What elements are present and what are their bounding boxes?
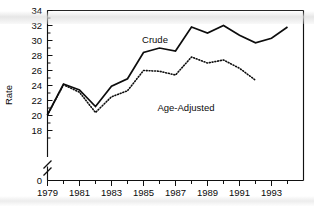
series-line-age-adjusted bbox=[48, 57, 256, 115]
x-ticks bbox=[48, 181, 288, 187]
y-axis-title: Rate bbox=[3, 85, 14, 105]
x-tick-label-1989: 1989 bbox=[197, 187, 218, 198]
y-ticks bbox=[48, 11, 53, 181]
series-label-crude: Crude bbox=[142, 34, 168, 45]
y-tick-label-26: 26 bbox=[31, 65, 42, 76]
x-tick-label-1979: 1979 bbox=[37, 187, 58, 198]
x-tick-labels: 1979 1981 1983 1985 1987 1989 1991 1993 bbox=[37, 187, 282, 198]
x-tick-label-1991: 1991 bbox=[229, 187, 250, 198]
x-tick-label-1987: 1987 bbox=[165, 187, 186, 198]
y-tick-label-34: 34 bbox=[31, 5, 42, 16]
line-chart: 34 32 30 28 26 24 22 20 18 0 Rate bbox=[0, 0, 314, 209]
y-tick-labels: 34 32 30 28 26 24 22 20 18 0 bbox=[31, 5, 42, 186]
y-tick-label-32: 32 bbox=[31, 20, 42, 31]
y-tick-label-28: 28 bbox=[31, 50, 42, 61]
x-tick-label-1993: 1993 bbox=[261, 187, 282, 198]
y-tick-label-30: 30 bbox=[31, 35, 42, 46]
y-tick-label-22: 22 bbox=[31, 95, 42, 106]
series-label-age-adjusted: Age-Adjusted bbox=[157, 102, 214, 113]
y-tick-label-0: 0 bbox=[37, 175, 42, 186]
y-tick-label-20: 20 bbox=[31, 110, 42, 121]
x-tick-label-1985: 1985 bbox=[133, 187, 154, 198]
y-tick-label-18: 18 bbox=[31, 125, 42, 136]
x-tick-label-1981: 1981 bbox=[69, 187, 90, 198]
y-tick-label-24: 24 bbox=[31, 80, 42, 91]
x-tick-label-1983: 1983 bbox=[101, 187, 122, 198]
chart-figure: 34 32 30 28 26 24 22 20 18 0 Rate bbox=[0, 0, 314, 209]
